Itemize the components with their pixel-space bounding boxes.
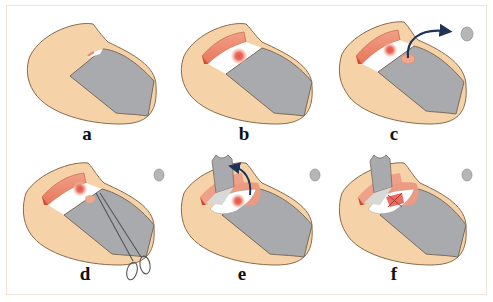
panel-a: a xyxy=(8,6,168,151)
finger-illustration xyxy=(328,153,488,298)
panel-f: f xyxy=(328,153,488,298)
panel-label-b: b xyxy=(234,123,254,145)
excised-disc xyxy=(310,169,320,181)
panel-label-d: d xyxy=(75,263,95,285)
lesion xyxy=(231,48,247,64)
excised-disc xyxy=(154,169,164,181)
panel-label-f: f xyxy=(384,263,404,285)
panel-c: c xyxy=(328,6,488,151)
panel-label-e: e xyxy=(232,263,252,285)
panel-label-c: c xyxy=(384,123,404,145)
nail-flap xyxy=(370,155,392,193)
panel-b: b xyxy=(166,6,326,151)
excised-disc xyxy=(461,27,473,41)
panel-d: d xyxy=(8,153,168,298)
panel-e: e xyxy=(166,153,326,298)
excised-disc xyxy=(462,169,472,181)
nail-flap xyxy=(212,155,234,193)
finger-illustration xyxy=(328,6,488,151)
panel-label-a: a xyxy=(77,123,97,145)
